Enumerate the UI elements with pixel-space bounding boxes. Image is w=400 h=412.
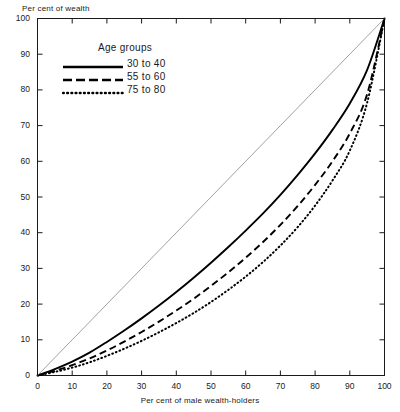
- legend-item: 30 to 40: [62, 57, 212, 70]
- chart-legend: Age groups 30 to 4055 to 6075 to 80: [62, 42, 212, 96]
- legend-line-sample: [62, 71, 124, 82]
- legend-item: 75 to 80: [62, 83, 212, 96]
- legend-line-sample: [62, 84, 124, 95]
- legend-entries: 30 to 4055 to 6075 to 80: [62, 57, 212, 96]
- legend-item-label: 55 to 60: [127, 71, 166, 82]
- legend-item: 55 to 60: [62, 70, 212, 83]
- legend-title: Age groups: [66, 42, 184, 53]
- chart-figure: Per cent of wealth Per cent of male weal…: [0, 0, 400, 412]
- legend-line-sample: [62, 58, 124, 69]
- legend-item-label: 75 to 80: [127, 84, 166, 95]
- legend-item-label: 30 to 40: [127, 58, 166, 69]
